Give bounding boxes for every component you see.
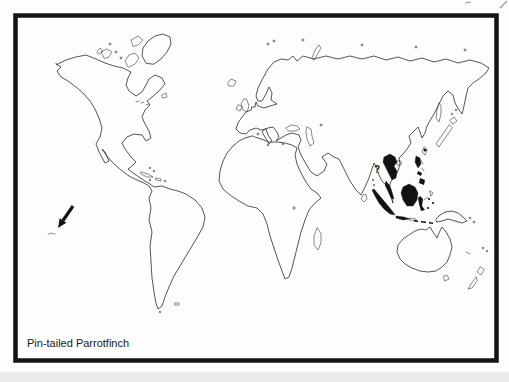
island-outline [267, 144, 269, 146]
range-sulawesi [418, 196, 425, 211]
island-outline [273, 40, 275, 42]
map-frame [16, 16, 497, 361]
range-mindanao [419, 178, 425, 185]
island-outline [156, 178, 161, 181]
island-outline [282, 143, 284, 145]
range-taiwan-dot [424, 149, 427, 152]
tasmania-outline [444, 275, 449, 281]
question-mark-annotation: ? [374, 164, 380, 175]
caspian-sea-outline [306, 127, 314, 146]
island-outline [153, 170, 155, 172]
island-outline [159, 311, 161, 313]
island-outline [164, 180, 166, 182]
sri-lanka-outline [361, 195, 367, 202]
madagascar-outline [314, 228, 321, 250]
australia-outline [397, 227, 452, 272]
island-outline [486, 250, 488, 252]
island-outline [149, 167, 151, 169]
ireland-outline [236, 105, 242, 111]
island-outline [415, 46, 417, 48]
range-pointer-arrow-icon [48, 206, 73, 234]
hokkaido-outline [450, 117, 457, 124]
island-outline [482, 247, 484, 249]
andaman-outline [372, 179, 373, 180]
black-sea-outline [286, 125, 300, 131]
island-outline [473, 221, 475, 223]
range-visayas [417, 171, 422, 176]
island-outline [120, 57, 122, 59]
island-outline [267, 43, 269, 45]
cuba-outline [141, 172, 153, 177]
map-caption: Pin-tailed Parrotfinch [27, 337, 129, 349]
scanned-field-guide-page: ? Pin-tailed Parrotfinch [0, 0, 509, 382]
range-moluccas-dot [427, 207, 429, 209]
hainan-outline [397, 161, 402, 166]
island-outline [115, 51, 117, 53]
falklands-outline [175, 303, 179, 305]
page-corner-artifact [465, 2, 471, 3]
island-outline [131, 36, 143, 46]
tiny-island-outline [48, 233, 55, 234]
new-zealand-outline [468, 267, 484, 289]
island-outline [455, 109, 457, 111]
iceland-outline [228, 79, 236, 86]
island-outline [109, 43, 111, 45]
philippines-outline [421, 160, 424, 171]
island-outline [464, 49, 466, 51]
aral-sea-outline [320, 124, 322, 126]
island-outline [257, 133, 259, 135]
continent-outlines [56, 34, 489, 313]
range-malay-peninsula [385, 181, 394, 199]
greenland-outline [142, 34, 171, 64]
halmahera-outline [430, 191, 433, 196]
scan-shadow-band [0, 372, 509, 382]
island-outline [125, 53, 139, 67]
page-corner-artifact [500, 1, 507, 8]
britain-outline [241, 99, 249, 112]
island-outline [469, 217, 471, 219]
japan-outline [436, 125, 452, 147]
range-lesser-sundas [414, 220, 433, 224]
island-outline [162, 93, 167, 98]
range-moluccas-dot [428, 198, 430, 200]
range-moluccas-dot [432, 202, 434, 204]
range-luzon [415, 156, 421, 168]
range-west-java [396, 216, 410, 220]
range-indochina [383, 154, 397, 180]
lake-victoria-outline [293, 207, 295, 209]
species-range-fill [372, 149, 434, 225]
island-outline [361, 44, 363, 46]
island-outline [149, 179, 151, 181]
sulawesi-arm-outline [424, 197, 428, 200]
island-outline [302, 39, 304, 41]
island-outline [97, 48, 103, 54]
new-guinea-outline [436, 211, 467, 223]
new-caledonia-outline [466, 252, 470, 254]
range-borneo [401, 184, 418, 206]
island-outline [451, 113, 453, 115]
world-map-svg: ? Pin-tailed Parrotfinch [0, 0, 509, 382]
africa-outline [219, 136, 321, 279]
andaman-outline [373, 184, 374, 185]
americas-outline [56, 55, 205, 309]
